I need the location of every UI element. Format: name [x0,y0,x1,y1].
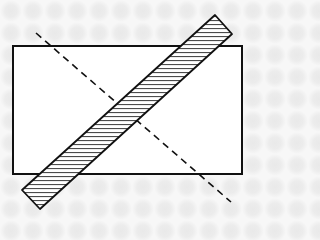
diagram-canvas [0,0,259,219]
diagram-svg [0,0,259,219]
